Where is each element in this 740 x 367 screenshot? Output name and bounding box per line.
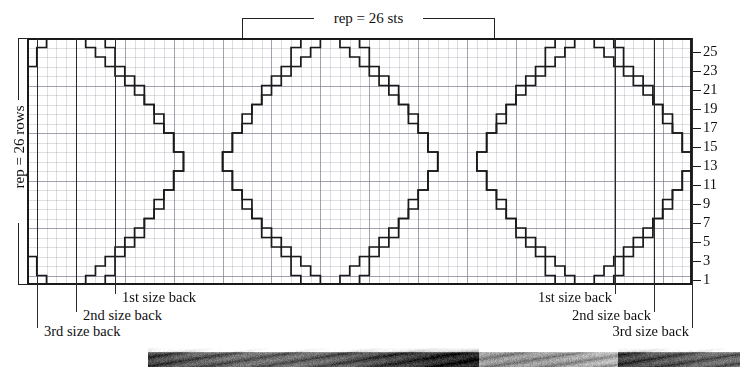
row-number-label: 3 — [703, 253, 710, 268]
row-number-label: 21 — [703, 82, 718, 97]
bracket-bottom-arm — [18, 284, 28, 285]
size-marker-label: 3rd size back — [44, 324, 121, 339]
row-tick-9 — [692, 204, 701, 205]
repeat-stitches-label: rep = 26 sts — [312, 10, 425, 26]
repeat-stitches-bracket: rep = 26 sts — [242, 12, 495, 38]
size-marker-line-right-2 — [692, 38, 693, 328]
row-tick-17 — [692, 128, 701, 129]
row-number-label: 25 — [703, 44, 718, 59]
row-tick-1 — [692, 280, 701, 281]
size-marker-line-left-2 — [115, 38, 116, 294]
row-tick-21 — [692, 90, 701, 91]
row-number-label: 7 — [703, 215, 710, 230]
chart-canvas — [27, 38, 692, 285]
size-marker-label: 2nd size back — [572, 308, 651, 323]
bracket-top-arm — [18, 38, 28, 39]
row-number-label: 9 — [703, 196, 710, 211]
size-marker-label: 3rd size back — [613, 324, 690, 339]
row-number-label: 19 — [703, 101, 718, 116]
size-marker-label: 1st size back — [122, 290, 196, 305]
repeat-rows-bracket: rep = 26 rows — [8, 38, 28, 285]
size-marker-label: 1st size back — [538, 290, 612, 305]
bracket-spine-bottom — [18, 223, 19, 285]
size-marker-line-right-1 — [654, 38, 655, 312]
row-number-label: 1 — [703, 272, 710, 287]
size-marker-label: 2nd size back — [83, 308, 162, 323]
row-number-label: 11 — [703, 177, 717, 192]
row-tick-3 — [692, 261, 701, 262]
row-tick-23 — [692, 71, 701, 72]
size-marker-line-left-1 — [76, 38, 77, 312]
size-marker-line-right-0 — [615, 38, 616, 294]
row-number-label: 17 — [703, 120, 718, 135]
row-number-label: 5 — [703, 234, 710, 249]
row-tick-15 — [692, 147, 701, 148]
row-number-label: 23 — [703, 63, 718, 78]
repeat-rows-label: rep = 26 rows — [11, 87, 27, 207]
row-tick-25 — [692, 52, 701, 53]
row-tick-19 — [692, 109, 701, 110]
bracket-bar-right — [423, 18, 495, 19]
row-number-label: 13 — [703, 158, 718, 173]
size-marker-line-left-0 — [37, 38, 38, 328]
pattern-photograph — [148, 348, 740, 367]
row-tick-7 — [692, 223, 701, 224]
bracket-left-arm — [242, 18, 243, 38]
row-tick-13 — [692, 166, 701, 167]
row-tick-5 — [692, 242, 701, 243]
bracket-right-arm — [494, 18, 495, 38]
chart-page: rep = 26 sts rep = 26 rows 2523211917151… — [0, 0, 740, 367]
knitting-chart-grid — [27, 38, 692, 285]
row-number-label: 15 — [703, 139, 718, 154]
bracket-bar-left — [242, 18, 314, 19]
row-tick-11 — [692, 185, 701, 186]
